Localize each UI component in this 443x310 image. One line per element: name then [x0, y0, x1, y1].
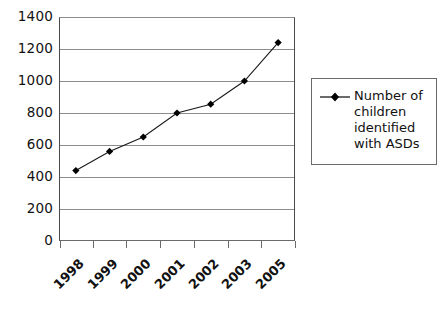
y-axis-tick-label: 400	[1, 170, 53, 184]
x-axis-tick-label: 2005	[253, 257, 288, 292]
x-axis-tickmarks	[59, 241, 295, 249]
x-axis-tick-label: 2000	[119, 257, 154, 292]
y-axis-labels: 0200400600800100012001400	[0, 17, 53, 241]
x-axis-tickmark	[126, 241, 127, 248]
y-axis-tick-label: 800	[1, 106, 53, 120]
x-axis-tick-label: 2003	[220, 257, 255, 292]
chart-legend: Number ofchildrenidentifiedwith ASDs	[311, 78, 437, 165]
y-axis-tick-label: 1400	[1, 10, 53, 24]
legend-entry: Number ofchildrenidentifiedwith ASDs	[320, 88, 423, 151]
y-axis-tick-label: 1000	[1, 74, 53, 88]
x-axis-tick-label: 2001	[152, 257, 187, 292]
data-series-line	[59, 17, 295, 241]
y-axis-tick-label: 0	[1, 234, 53, 248]
x-axis-tickmark	[228, 241, 229, 248]
x-axis-tickmark	[60, 241, 61, 248]
legend-label: Number ofchildrenidentifiedwith ASDs	[354, 88, 423, 151]
y-axis-tick-label: 200	[1, 202, 53, 216]
data-point-marker	[140, 133, 147, 140]
legend-label-line: with ASDs	[354, 136, 423, 152]
data-point-marker	[106, 148, 113, 155]
legend-label-line: children	[354, 104, 423, 120]
x-axis-tickmark	[261, 241, 262, 248]
legend-label-line: identified	[354, 120, 423, 136]
x-axis-tick-label: 1998	[51, 257, 86, 292]
legend-diamond-marker-icon	[320, 89, 350, 103]
legend-label-line: Number of	[354, 88, 423, 104]
x-axis-tickmark	[93, 241, 94, 248]
x-axis-tickmark	[295, 241, 296, 248]
y-axis-tick-label: 600	[1, 138, 53, 152]
data-point-marker	[207, 101, 214, 108]
data-point-marker	[72, 167, 79, 174]
y-axis-tick-label: 1200	[1, 42, 53, 56]
chart-canvas: 0200400600800100012001400 19981999200020…	[0, 0, 443, 310]
x-axis-tick-label: 2002	[186, 257, 221, 292]
x-axis-tickmark	[194, 241, 195, 248]
x-axis-labels: 1998199920002001200220032005	[59, 249, 319, 309]
x-axis-tick-label: 1999	[85, 257, 120, 292]
x-axis-tickmark	[160, 241, 161, 248]
data-point-marker	[173, 109, 180, 116]
